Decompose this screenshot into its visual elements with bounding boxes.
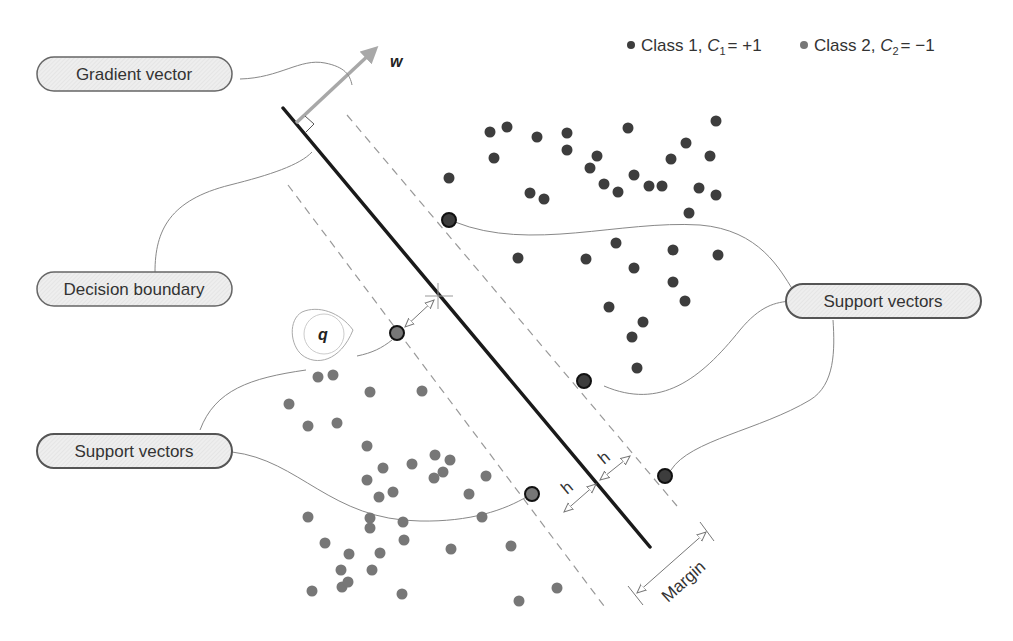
- support-vector-class2: [390, 326, 404, 340]
- connector-gradient: [240, 62, 352, 85]
- class2-point: [332, 418, 343, 429]
- class2-point: [320, 538, 331, 549]
- class1-point: [713, 250, 724, 261]
- decision-boundary-callout: Decision boundary: [37, 272, 232, 306]
- class2-point: [344, 549, 355, 560]
- class2-point: [477, 512, 488, 523]
- class1-point: [668, 245, 679, 256]
- class1-point: [525, 188, 536, 199]
- svg-text:Support vectors: Support vectors: [74, 442, 193, 461]
- class2-point: [303, 421, 314, 432]
- class2-point: [397, 589, 408, 600]
- class2-point: [307, 586, 318, 597]
- class1-point: [705, 151, 716, 162]
- class2-point: [399, 535, 410, 546]
- class2-point: [313, 372, 324, 383]
- margin-tick-right: [700, 522, 714, 541]
- support-vector-class2: [525, 487, 539, 501]
- class1-point: [711, 116, 722, 127]
- class1-point: [644, 181, 655, 192]
- class2-point: [367, 565, 378, 576]
- class2-point: [445, 455, 456, 466]
- legend-class2-label: Class 2, C2= −1: [814, 36, 935, 57]
- legend-class2-marker: [800, 41, 808, 49]
- class1-point: [599, 179, 610, 190]
- class2-point: [328, 370, 339, 381]
- class2-point: [438, 467, 449, 478]
- class1-point: [513, 253, 524, 264]
- class1-point: [489, 153, 500, 164]
- class2-point: [362, 475, 373, 486]
- class2-point: [303, 512, 314, 523]
- class1-point: [502, 122, 513, 133]
- class1-point: [668, 277, 679, 288]
- class1-point: [611, 238, 622, 249]
- class1-point: [657, 181, 668, 192]
- class1-point: [613, 187, 624, 198]
- legend: Class 1, C1= +1 Class 2, C2= −1: [627, 36, 935, 57]
- class2-point: [284, 399, 295, 410]
- class2-point: [417, 386, 428, 397]
- class1-point: [684, 208, 695, 219]
- support-vector-class1: [658, 469, 672, 483]
- class2-point: [365, 523, 376, 534]
- q-label: q: [318, 326, 328, 343]
- margin-line-class2: [288, 185, 604, 606]
- margin-line-class1: [347, 115, 677, 506]
- gradient-vector-callout: Gradient vector: [37, 57, 232, 91]
- support-vector-class1: [577, 374, 591, 388]
- class2-point: [343, 577, 354, 588]
- class2-point: [378, 463, 389, 474]
- class1-point: [539, 194, 550, 205]
- class1-point: [711, 190, 722, 201]
- connector-sv-right-b: [604, 301, 792, 394]
- class1-point: [444, 173, 455, 184]
- class1-point: [562, 145, 573, 156]
- connector-sv-right-c: [671, 320, 834, 470]
- class1-point: [604, 302, 615, 313]
- class2-point: [430, 450, 441, 461]
- class1-point: [629, 170, 640, 181]
- q-marker: q: [292, 309, 353, 360]
- class2-point: [481, 471, 492, 482]
- svm-diagram: w h h Margin q Gradient vector Decision …: [0, 0, 1013, 641]
- class2-point: [375, 548, 386, 559]
- class1-point: [581, 254, 592, 265]
- class1-point: [562, 128, 573, 139]
- legend-class1-marker: [627, 41, 635, 49]
- class2-point: [464, 489, 475, 500]
- class1-point: [694, 183, 705, 194]
- svg-text:Support vectors: Support vectors: [823, 292, 942, 311]
- class1-point: [638, 317, 649, 328]
- class2-point: [336, 565, 347, 576]
- margin-label: Margin: [658, 557, 709, 606]
- class2-point: [365, 513, 376, 524]
- connector-decision: [155, 152, 312, 272]
- svg-text:Decision boundary: Decision boundary: [64, 280, 205, 299]
- connector-sv-left-bottom: [232, 452, 528, 521]
- right-angle-marker: [305, 116, 314, 132]
- class2-point: [407, 459, 418, 470]
- class1-point: [666, 154, 677, 165]
- class2-point: [388, 487, 399, 498]
- class2-point: [446, 544, 457, 555]
- connector-sv-right-a: [455, 222, 793, 290]
- support-vector-class1: [442, 213, 456, 227]
- class1-point: [585, 163, 596, 174]
- class2-point: [362, 441, 373, 452]
- class2-point: [374, 492, 385, 503]
- class2-point: [398, 517, 409, 528]
- class1-point: [632, 363, 643, 374]
- margin-tick-left: [628, 586, 643, 605]
- class1-point: [627, 332, 638, 343]
- class2-point: [514, 596, 525, 607]
- svg-text:Gradient vector: Gradient vector: [76, 65, 193, 84]
- support-vectors-right-callout: Support vectors: [786, 284, 981, 318]
- h-label-upper: h: [594, 447, 613, 468]
- class2-points: [284, 370, 563, 607]
- w-label: w: [390, 53, 404, 70]
- class1-point: [592, 151, 603, 162]
- class2-point: [552, 583, 563, 594]
- q-distance-arrow: [405, 300, 434, 327]
- h-label-lower: h: [557, 477, 576, 498]
